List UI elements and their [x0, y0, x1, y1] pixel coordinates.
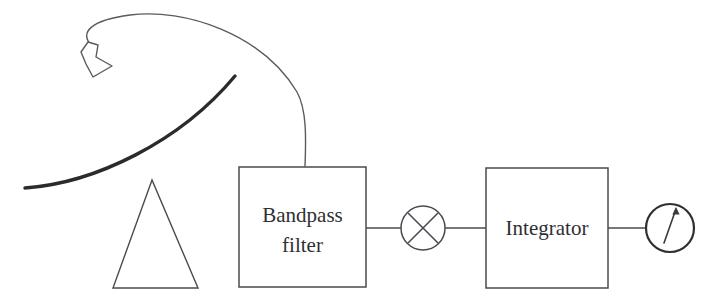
block-bandpass-filter[interactable]: Bandpass filter	[239, 167, 366, 287]
multiplier-node[interactable]	[401, 206, 445, 250]
bandpass-filter-label-line1: Bandpass	[262, 203, 343, 227]
feed-horn-icon	[81, 42, 112, 77]
tripod-stand	[113, 180, 198, 288]
radiometer-block-diagram: Bandpass filter Integrator	[0, 0, 718, 305]
integrator-label: Integrator	[506, 216, 589, 240]
diagram-canvas-svg: Bandpass filter Integrator	[0, 0, 718, 305]
output-meter[interactable]	[646, 204, 694, 252]
bandpass-filter-label-line2: filter	[282, 233, 323, 257]
bandpass-filter-box[interactable]	[239, 167, 366, 287]
reflector-dish	[25, 76, 235, 188]
block-integrator[interactable]: Integrator	[486, 168, 608, 288]
feed-cable-line	[87, 14, 306, 166]
